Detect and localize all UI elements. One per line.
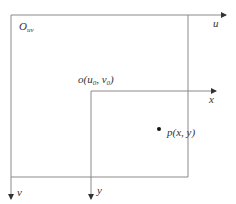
diagram-lines bbox=[0, 0, 236, 204]
origin-xy-suffix: ) bbox=[110, 73, 114, 85]
point-p-label: p(x, y) bbox=[167, 127, 195, 138]
y-axis-label: y bbox=[97, 185, 102, 196]
x-axis-label: x bbox=[209, 94, 214, 105]
origin-xy-label: o(u0, v0) bbox=[78, 74, 114, 87]
point-p-dot bbox=[157, 127, 161, 131]
origin-xy-mid: , v bbox=[96, 73, 106, 85]
origin-uv-label: Ouv bbox=[19, 21, 34, 34]
coordinate-diagram: Ouv o(u0, v0) u v x y p(x, y) bbox=[0, 0, 236, 204]
origin-uv-letter: O bbox=[19, 20, 27, 32]
v-axis-label: v bbox=[17, 187, 22, 198]
origin-uv-subscript: uv bbox=[27, 26, 34, 34]
u-axis-label: u bbox=[213, 18, 219, 29]
origin-xy-prefix: o(u bbox=[78, 73, 93, 85]
